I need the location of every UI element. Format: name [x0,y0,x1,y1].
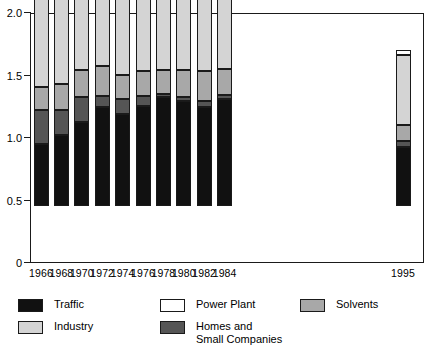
legend-item: Traffic [18,298,84,312]
y-axis-tick [24,75,31,76]
bar-1974 [115,0,130,206]
x-axis-label: 1984 [210,267,240,279]
bar-segment [115,114,130,207]
bar-segment [396,50,411,55]
legend-label: Traffic [54,298,84,311]
y-axis-tick [24,262,31,263]
bar-segment [217,95,232,99]
legend-label: Industry [54,320,93,333]
bar-segment [197,0,212,71]
bar-segment [396,125,411,141]
bar-1972 [95,0,110,206]
bar-segment [34,110,49,144]
y-axis-label: 2.0 [0,8,22,18]
legend-label: Homes and Small Companies [196,320,282,345]
legend-item: Solvents [300,298,378,312]
bar-segment [95,66,110,96]
bar-segment [95,96,110,107]
bar-1982 [197,0,212,206]
bar-1995 [396,50,411,206]
legend-swatch [160,321,185,334]
legend-item: Industry [18,320,93,334]
bar-segment [217,0,232,69]
bar-segment [197,71,212,101]
legend-label: Power Plant [196,298,255,311]
bar-segment [217,99,232,207]
bar-segment [136,0,151,71]
bar-segment [54,84,69,110]
bar-segment [156,97,171,206]
legend-swatch [18,321,43,334]
bar-segment [95,0,110,66]
chart-legend: TrafficPower PlantSolventsIndustryHomes … [0,296,429,349]
bar-segment [197,101,212,107]
legend-swatch [300,299,325,312]
bar-segment [54,110,69,135]
bar-segment [156,0,171,70]
bar-1966 [34,0,49,206]
y-axis-tick [24,137,31,138]
bar-1970 [74,0,89,206]
legend-label: Solvents [336,298,378,311]
bar-1976 [136,0,151,206]
y-axis-label: 0.5 [0,196,22,206]
bar-1980 [176,0,191,206]
bar-segment [176,0,191,70]
bar-segment [217,69,232,95]
bar-segment [115,0,130,75]
bar-segment [74,97,89,122]
bar-segment [74,122,89,206]
bar-segment [197,107,212,206]
y-axis-label: 1.5 [0,71,22,81]
legend-swatch [160,299,185,312]
bar-segment [54,135,69,206]
legend-item: Power Plant [160,298,255,312]
x-axis-label: 1995 [388,267,418,279]
legend-swatch [18,299,43,312]
bar-segment [115,99,130,114]
bar-segment [396,147,411,206]
bar-1984 [217,0,232,206]
bar-segment [396,141,411,147]
bar-segment [115,75,130,99]
bar-segment [176,97,191,101]
y-axis-label: 1.0 [0,133,22,143]
bar-segment [136,106,151,206]
bar-segment [176,70,191,98]
bar-segment [74,0,89,70]
bar-segment [156,70,171,94]
bar-segment [34,87,49,110]
legend-item: Homes and Small Companies [160,320,282,345]
bar-segment [396,55,411,125]
bar-segment [136,71,151,96]
bar-segment [34,0,49,87]
bar-segment [136,96,151,106]
bar-segment [34,144,49,207]
y-axis-tick [24,200,31,201]
y-axis-label: 0 [0,258,22,268]
bar-1968 [54,0,69,206]
bar-segment [54,0,69,84]
bar-1978 [156,0,171,206]
bar-segment [95,107,110,206]
y-axis-tick [24,12,31,13]
bar-segment [156,94,171,98]
chart-area: 00.51.01.52.0 19661968197019721974197619… [0,0,429,292]
bar-segment [176,101,191,206]
bar-segment [74,70,89,98]
